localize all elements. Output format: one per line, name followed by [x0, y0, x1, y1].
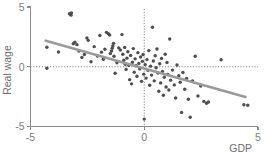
- scatter-point: [133, 70, 136, 73]
- x-tick-label-2: 5: [255, 131, 261, 143]
- scatter-point: [45, 66, 48, 69]
- scatter-point: [143, 117, 146, 120]
- scatter-point: [103, 47, 106, 50]
- scatter-point: [112, 42, 115, 45]
- scatter-point: [153, 54, 156, 57]
- scatter-point: [98, 34, 101, 37]
- scatter-point: [246, 104, 249, 107]
- scatter-point: [168, 37, 171, 40]
- scatter-point: [174, 96, 177, 99]
- scatter-point: [100, 50, 103, 53]
- scatter-point: [162, 93, 165, 96]
- scatter-point: [149, 64, 152, 67]
- scatter-point: [175, 63, 178, 66]
- scatter-point: [125, 56, 128, 59]
- scatter-point: [153, 79, 156, 82]
- x-tick-label-1: 0: [141, 131, 147, 143]
- x-axis-title: GDP: [229, 142, 252, 154]
- scatter-point: [183, 88, 186, 91]
- scatter-point: [158, 62, 161, 65]
- scatter-point: [163, 76, 166, 79]
- scatter-point: [132, 47, 135, 50]
- scatter-point: [165, 61, 168, 64]
- scatter-point: [154, 66, 157, 69]
- scatter-point: [87, 39, 90, 42]
- scatter-point: [57, 50, 60, 53]
- scatter-point: [144, 76, 147, 79]
- scatter-point: [121, 53, 124, 56]
- scatter-point: [242, 103, 245, 106]
- scatter-point: [80, 56, 83, 59]
- scatter-point: [167, 88, 170, 91]
- scatter-point: [160, 57, 163, 60]
- scatter-point: [169, 78, 172, 81]
- scatter-point: [207, 100, 210, 103]
- scatter-point: [163, 53, 166, 56]
- scatter-point: [141, 53, 144, 56]
- scatter-point: [126, 50, 129, 53]
- scatter-point: [93, 45, 96, 48]
- scatter-point: [187, 98, 190, 101]
- scatter-point: [180, 111, 183, 114]
- scatter-point: [69, 13, 72, 16]
- scatter-point: [75, 43, 78, 46]
- scatter-point: [189, 115, 192, 118]
- scatter-point: [178, 81, 181, 84]
- scatter-point: [123, 46, 126, 49]
- scatter-point: [196, 94, 199, 97]
- y-axis-title: Real wage: [1, 45, 13, 95]
- scatter-point: [142, 72, 145, 75]
- scatter-point: [120, 33, 123, 36]
- y-tick-label-2: 5: [19, 1, 25, 13]
- scatter-point: [139, 55, 142, 58]
- scatter-point: [135, 75, 138, 78]
- scatter-point: [140, 80, 143, 83]
- scatter-point: [159, 81, 162, 84]
- scatter-point: [151, 26, 154, 29]
- scatter-point: [143, 63, 146, 66]
- scatter-point: [148, 84, 151, 87]
- scatter-point: [219, 58, 222, 61]
- scatter-point: [119, 48, 122, 51]
- scatter-point: [147, 49, 150, 52]
- scatter-point: [152, 59, 155, 62]
- scatter-point: [136, 51, 139, 54]
- scatter-point: [150, 73, 153, 76]
- scatter-point: [181, 71, 184, 74]
- scatter-point: [194, 55, 197, 58]
- scatter-point: [157, 90, 160, 93]
- plot-background: [0, 0, 267, 155]
- scatter-point: [130, 82, 133, 85]
- scatter-point: [129, 54, 132, 57]
- scatter-point: [108, 33, 111, 36]
- scatter-point: [171, 68, 174, 71]
- chart-canvas: -505-505 Real wage GDP: [0, 0, 267, 155]
- y-tick-label-0: -5: [15, 120, 24, 132]
- scatter-point: [124, 68, 127, 71]
- scatter-point: [133, 57, 136, 60]
- scatter-plot-figure: -505-505 Real wage GDP: [0, 0, 267, 155]
- scatter-point: [45, 46, 48, 49]
- scatter-point: [141, 60, 144, 63]
- y-tick-label-1: 0: [19, 61, 25, 73]
- scatter-point: [173, 83, 176, 86]
- scatter-point: [113, 72, 116, 75]
- scatter-point: [137, 62, 140, 65]
- scatter-point: [145, 58, 148, 61]
- scatter-point: [128, 78, 131, 81]
- scatter-point: [164, 85, 167, 88]
- scatter-point: [89, 60, 92, 63]
- scatter-point: [131, 61, 134, 64]
- scatter-point: [112, 55, 115, 58]
- x-tick-label-0: -5: [26, 131, 35, 143]
- scatter-point: [155, 47, 158, 50]
